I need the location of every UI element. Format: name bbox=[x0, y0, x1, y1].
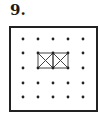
grid-dot bbox=[82, 82, 85, 85]
grid-dot bbox=[67, 38, 70, 41]
grid-dot bbox=[22, 67, 25, 70]
grid-dot bbox=[22, 82, 25, 85]
dot-grid-diagram bbox=[0, 0, 100, 123]
grid-dot bbox=[67, 96, 70, 99]
grid-dot bbox=[52, 67, 55, 70]
squares-with-diagonals-figure bbox=[38, 53, 68, 68]
grid-dot bbox=[37, 82, 40, 85]
grid-dot bbox=[67, 52, 70, 55]
grid-dot bbox=[52, 38, 55, 41]
grid-dot bbox=[22, 96, 25, 99]
grid-dot bbox=[37, 52, 40, 55]
grid-dot bbox=[82, 67, 85, 70]
grid-dot bbox=[37, 67, 40, 70]
grid-dot bbox=[82, 96, 85, 99]
grid-dot bbox=[67, 67, 70, 70]
grid-dot bbox=[52, 82, 55, 85]
grid-dot bbox=[82, 52, 85, 55]
grid-dot bbox=[52, 52, 55, 55]
grid-dot bbox=[22, 38, 25, 41]
grid-dot bbox=[37, 38, 40, 41]
grid-dot bbox=[82, 38, 85, 41]
grid-dot bbox=[67, 82, 70, 85]
grid-dot bbox=[37, 96, 40, 99]
grid-dot bbox=[52, 96, 55, 99]
grid-dot bbox=[22, 52, 25, 55]
